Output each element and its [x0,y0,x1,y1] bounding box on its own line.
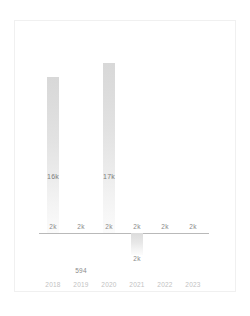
bar-value-label-2018: 16k [39,173,67,181]
chart-column-2020[interactable]: 17k 2k 2020 [95,21,123,293]
axis-value-label-2018: 2k [39,223,67,231]
bar-chart-plot: 16k 2k 2018 2k 594 2019 17k 2k 2020 2k [15,21,237,293]
below-axis-label-2019: 594 [67,267,95,275]
chart-column-2019[interactable]: 2k 594 2019 [67,21,95,293]
chart-card: 16k 2k 2018 2k 594 2019 17k 2k 2020 2k [14,20,236,292]
bar-value-label-2020: 17k [95,173,123,181]
bar-2018[interactable] [47,77,59,233]
axis-value-label-2021: 2k [123,223,151,231]
screenshot-root: 16k 2k 2018 2k 594 2019 17k 2k 2020 2k [0,0,250,316]
axis-value-label-2022: 2k [151,223,179,231]
bar-2020[interactable] [103,63,115,233]
chart-column-2018[interactable]: 16k 2k 2018 [39,21,67,293]
axis-value-label-2023: 2k [179,223,207,231]
chart-column-2023[interactable]: 2k 2023 [179,21,207,293]
bar-2021-negative[interactable] [131,233,143,255]
x-tick-label-2023: 2023 [179,281,207,288]
axis-value-label-2019: 2k [67,223,95,231]
below-axis-label-2021: 2k [123,255,151,263]
x-tick-label-2022: 2022 [151,281,179,288]
axis-value-label-2020: 2k [95,223,123,231]
x-tick-label-2019: 2019 [67,281,95,288]
x-tick-label-2021: 2021 [123,281,151,288]
chart-column-2021[interactable]: 2k 2k 2021 [123,21,151,293]
x-tick-label-2018: 2018 [39,281,67,288]
chart-column-2022[interactable]: 2k 2022 [151,21,179,293]
x-tick-label-2020: 2020 [95,281,123,288]
